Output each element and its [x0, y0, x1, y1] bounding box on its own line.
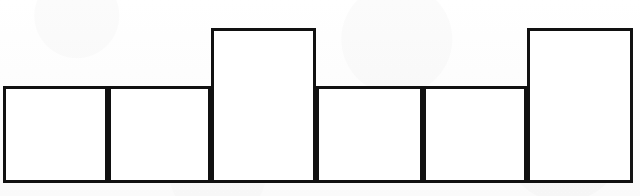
- histogram-bar-6: [529, 30, 632, 182]
- histogram-bar-2: [110, 88, 210, 182]
- histogram-bars-group: [5, 30, 632, 182]
- histogram-bar-1: [5, 88, 107, 182]
- histogram-bar-4: [318, 88, 422, 182]
- plot-area: [0, 0, 640, 196]
- histogram-figure: [0, 0, 640, 196]
- histogram-bar-3: [213, 30, 315, 182]
- histogram-bar-5: [425, 88, 526, 182]
- histogram-svg: [0, 0, 640, 196]
